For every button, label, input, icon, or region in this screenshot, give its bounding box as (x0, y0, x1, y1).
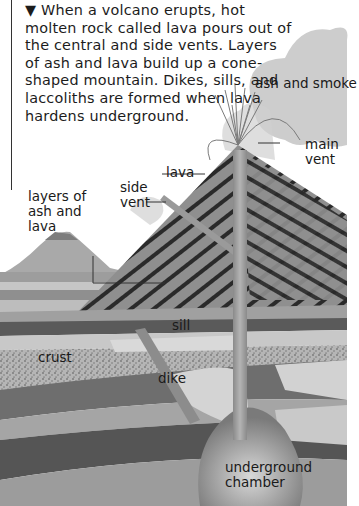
label-sill: sill (172, 318, 190, 333)
label-lava: lava (166, 165, 194, 180)
intro-paragraph: ▼ When a volcano erupts, hot molten rock… (25, 2, 295, 125)
label-main-vent: main vent (305, 137, 345, 167)
label-dike: dike (158, 371, 186, 386)
central-conduit (233, 150, 247, 440)
label-side-vent: side vent (120, 180, 154, 210)
label-underground-chamber: underground chamber (225, 460, 320, 490)
main-cone (70, 145, 347, 320)
label-crust: crust (38, 350, 72, 365)
label-layers-of-ash-and-lava: layers of ash and lava (28, 189, 108, 234)
intro-rule (11, 0, 12, 190)
label-ash-and-smoke: ash and smoke (255, 76, 357, 91)
intro-text: When a volcano erupts, hot molten rock c… (25, 2, 292, 124)
bullet-triangle-icon: ▼ (25, 2, 36, 18)
